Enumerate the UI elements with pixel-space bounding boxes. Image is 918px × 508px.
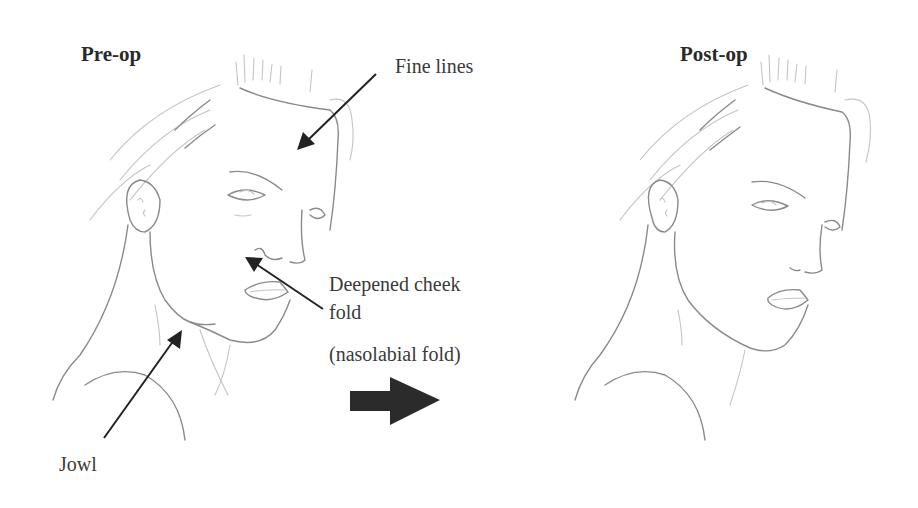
jowl-label: Jowl — [59, 452, 97, 476]
cheek-fold-label-line2: fold — [329, 300, 361, 324]
cheek-fold-label-line1: Deepened cheek — [329, 272, 461, 296]
transition-right-arrow-icon — [350, 377, 440, 425]
fine-lines-arrow — [297, 74, 376, 150]
jowl-arrow — [104, 330, 182, 438]
cheek-fold-arrow — [245, 257, 323, 309]
post-op-title: Post-op — [680, 42, 748, 67]
fine-lines-label: Fine lines — [395, 54, 473, 78]
pre-op-title: Pre-op — [81, 42, 141, 67]
nasolabial-fold-label: (nasolabial fold) — [329, 342, 461, 366]
post-op-face-sketch — [575, 55, 871, 440]
pre-op-face-sketch — [53, 55, 353, 440]
